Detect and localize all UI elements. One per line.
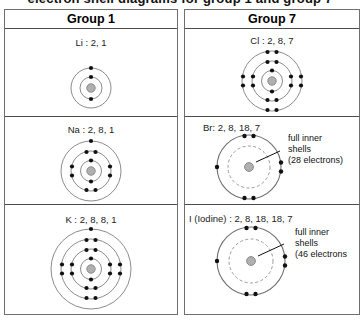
group-7-table: Group 7 Cl : 2, 8, 7: [184, 9, 360, 315]
table-row-iodine: I (Iodine) : 2, 8, 18, 18, 7 full inner: [185, 205, 359, 315]
clipped-figure-title: electron shell diagrams for group 1 and …: [0, 0, 360, 6]
group-1-header: Group 1: [5, 10, 177, 29]
table-row-chlorine: Cl : 2, 8, 7: [185, 29, 359, 117]
bromine-atom-diagram: [139, 131, 359, 203]
table-row-lithium: Li : 2, 1: [5, 29, 177, 117]
iodine-annotation-line-3: (46 electrons: [295, 249, 347, 260]
bromine-annotation-line-1: full inner: [288, 133, 322, 144]
table-row-bromine: Br: 2, 8, 18, 7 full inner shells: [185, 117, 359, 205]
bromine-annotation-line-2: shells: [288, 144, 311, 155]
group-1-header-label: Group 1: [67, 12, 115, 26]
lithium-label: Li : 2, 1: [5, 37, 177, 48]
chlorine-atom-diagram: [185, 43, 359, 115]
diagram-tables: Group 1 Li : 2, 1 Na : 2, 8, 1: [0, 9, 360, 322]
iodine-annotation-line-1: full inner: [295, 227, 329, 238]
bromine-annotation-line-3: (28 electrons): [288, 155, 343, 166]
lithium-atom-diagram: [5, 48, 177, 112]
group-7-header-label: Group 7: [248, 12, 296, 26]
iodine-annotation-line-2: shells: [295, 238, 318, 249]
group-7-header: Group 7: [185, 10, 359, 29]
